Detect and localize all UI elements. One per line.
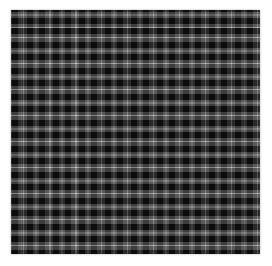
tartan-swatch [11,10,260,254]
pattern-canvas [0,0,272,266]
